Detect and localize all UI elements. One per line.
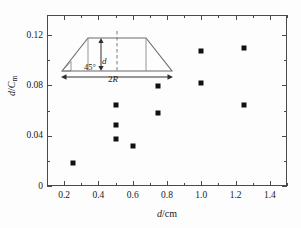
data-point [113, 137, 118, 142]
y-minor-tick [47, 111, 50, 112]
x-minor-tick [184, 183, 185, 186]
data-point [242, 102, 247, 107]
x-minor-tick-top [47, 15, 48, 18]
x-tick-label: 0.6 [127, 190, 139, 200]
x-tick-label: 0.2 [58, 190, 70, 200]
figure-container: d/Cm d/cm 00.040.080.120.20.40.60.81.01.… [0, 0, 301, 228]
height-arrow-down [98, 66, 103, 71]
data-point [156, 111, 161, 116]
y-major-tick-right [282, 136, 287, 137]
x-major-tick [98, 181, 99, 186]
angle-marker-triangle [62, 62, 71, 72]
base-arrow-right [168, 74, 174, 79]
x-minor-tick [81, 183, 82, 186]
x-major-tick-top [167, 15, 168, 20]
y-minor-tick [47, 161, 50, 162]
y-major-tick-right [282, 186, 287, 187]
x-minor-tick-top [253, 15, 254, 18]
y-major-tick [47, 35, 52, 36]
x-major-tick [167, 181, 168, 186]
x-tick-label: 1.0 [195, 190, 207, 200]
x-major-tick [133, 181, 134, 186]
inset-height-label: d [102, 56, 107, 66]
x-major-tick [270, 181, 271, 186]
data-point [113, 123, 118, 128]
x-minor-tick-top [184, 15, 185, 18]
inset-base-label: 2R [108, 74, 118, 84]
trapezoid-outline [62, 38, 172, 71]
x-minor-tick-top [116, 15, 117, 18]
x-minor-tick [150, 183, 151, 186]
data-point [70, 161, 75, 166]
data-point [199, 49, 204, 54]
data-point [113, 102, 118, 107]
inset-angle-label: 45° [84, 62, 96, 72]
height-arrow-up [98, 38, 103, 43]
y-minor-tick [47, 60, 50, 61]
x-tick-label: 0.4 [92, 190, 104, 200]
x-tick-label: 1.4 [264, 190, 276, 200]
y-major-tick [47, 186, 52, 187]
x-tick-label: 0.8 [161, 190, 173, 200]
x-minor-tick [47, 183, 48, 186]
y-minor-tick-right [284, 161, 287, 162]
x-major-tick-top [236, 15, 237, 20]
y-major-tick [47, 136, 52, 137]
x-major-tick [236, 181, 237, 186]
x-major-tick-top [64, 15, 65, 20]
data-point [199, 80, 204, 85]
x-minor-tick [218, 183, 219, 186]
x-minor-tick-top [218, 15, 219, 18]
inset-base-radius: R [113, 74, 119, 84]
x-tick-label: 1.2 [230, 190, 242, 200]
y-minor-tick-right [284, 60, 287, 61]
x-major-tick-top [133, 15, 134, 20]
x-minor-tick-top [287, 15, 288, 18]
data-point [242, 45, 247, 50]
y-tick-label: 0.12 [14, 29, 43, 42]
x-minor-tick-top [81, 15, 82, 18]
x-minor-tick [116, 183, 117, 186]
x-minor-tick-top [150, 15, 151, 18]
base-arrow-left [61, 74, 67, 79]
y-minor-tick-right [284, 111, 287, 112]
y-major-tick-right [282, 35, 287, 36]
x-minor-tick [287, 183, 288, 186]
x-major-tick [201, 181, 202, 186]
x-axis-title-unit: /cm [162, 208, 177, 219]
y-major-tick-right [282, 85, 287, 86]
data-point [130, 144, 135, 149]
x-axis-title: d/cm [157, 208, 177, 219]
x-major-tick [64, 181, 65, 186]
y-major-tick [47, 85, 52, 86]
y-tick-label: 0 [14, 180, 43, 193]
x-major-tick-top [201, 15, 202, 20]
inset-trapezoid-diagram: 45° d 2R [58, 26, 176, 86]
y-tick-label: 0.04 [14, 129, 43, 142]
y-tick-label: 0.08 [14, 79, 43, 92]
x-major-tick-top [270, 15, 271, 20]
x-minor-tick [253, 183, 254, 186]
x-major-tick-top [98, 15, 99, 20]
